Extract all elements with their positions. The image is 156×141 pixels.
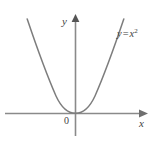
equation-exponent: 2 xyxy=(134,27,138,35)
equation-lhs: y xyxy=(117,28,122,39)
y-axis-label: y xyxy=(62,16,67,27)
equation-operator: = xyxy=(122,28,130,39)
origin-label: 0 xyxy=(64,116,69,126)
equation-label: y=x2 xyxy=(117,29,138,40)
parabola-figure: y x 0 y=x2 xyxy=(0,0,156,141)
y-axis-arrow-icon xyxy=(72,14,80,22)
plot-canvas xyxy=(0,0,156,141)
x-axis-label: x xyxy=(139,118,144,129)
